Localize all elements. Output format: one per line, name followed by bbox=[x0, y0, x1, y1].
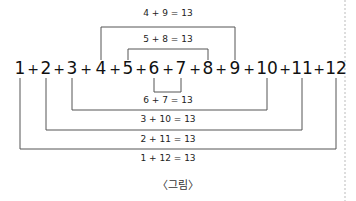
number-1: 1 bbox=[15, 58, 26, 78]
plus-sign: + bbox=[215, 61, 227, 77]
figure-caption: 〈그림〉 bbox=[157, 176, 199, 192]
number-11: 11 bbox=[291, 58, 313, 78]
number-4: 4 bbox=[96, 58, 107, 78]
plus-sign: + bbox=[135, 61, 147, 77]
plus-sign: + bbox=[189, 61, 201, 77]
pair-label-5-8: 5 + 8 = 13 bbox=[143, 34, 192, 44]
pair-label-4-9: 4 + 9 = 13 bbox=[143, 8, 192, 18]
number-12: 12 bbox=[325, 58, 347, 78]
number-5: 5 bbox=[123, 58, 134, 78]
number-2: 2 bbox=[41, 58, 52, 78]
bracket-3-10 bbox=[72, 78, 267, 110]
plus-sign: + bbox=[243, 61, 255, 77]
plus-sign: + bbox=[53, 61, 65, 77]
number-6: 6 bbox=[149, 58, 160, 78]
bracket-6-7 bbox=[154, 78, 181, 92]
pair-label-1-12: 1 + 12 = 13 bbox=[140, 153, 195, 163]
number-10: 10 bbox=[256, 58, 278, 78]
plus-sign: + bbox=[313, 61, 325, 77]
number-3: 3 bbox=[67, 58, 78, 78]
pair-label-3-10: 3 + 10 = 13 bbox=[140, 114, 195, 124]
number-7: 7 bbox=[176, 58, 187, 78]
number-8: 8 bbox=[203, 58, 214, 78]
pair-label-6-7: 6 + 7 = 13 bbox=[143, 95, 192, 105]
bracket-5-8 bbox=[128, 49, 208, 60]
number-9: 9 bbox=[230, 58, 241, 78]
plus-sign: + bbox=[162, 61, 174, 77]
plus-sign: + bbox=[80, 61, 92, 77]
plus-sign: + bbox=[27, 61, 39, 77]
plus-sign: + bbox=[109, 61, 121, 77]
pair-label-2-11: 2 + 11 = 13 bbox=[140, 134, 195, 144]
plus-sign: + bbox=[279, 61, 291, 77]
